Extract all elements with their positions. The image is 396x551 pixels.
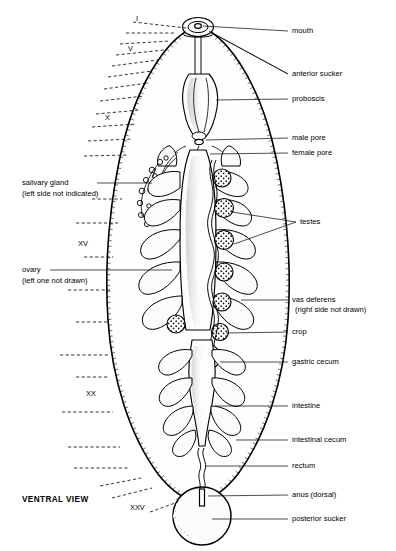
segment-numeral-XV: XV: [78, 239, 88, 248]
label-rectum: rectum: [292, 461, 315, 470]
label-intestine: intestine: [292, 401, 320, 410]
segment-numeral-I: I: [136, 14, 138, 23]
label-ovary-note: (left one not drawn): [22, 276, 88, 285]
leech-anatomy-svg: mouthanterior suckerproboscismale porefe…: [0, 0, 396, 551]
label-crop: crop: [292, 327, 307, 336]
left-label-group: salivary gland(left side not indicated)o…: [22, 178, 99, 285]
label-vas-deferens-note: (right side not drawn): [295, 305, 367, 314]
label-testes: testes: [300, 217, 320, 226]
label-posterior-sucker: posterior sucker: [292, 514, 346, 523]
label-proboscis: proboscis: [292, 94, 325, 103]
label-male-pore: male pore: [292, 133, 326, 142]
label-female-pore: female pore: [292, 148, 332, 157]
label-intestinal-cecum: intestinal cecum: [292, 435, 346, 444]
label-mouth: mouth: [292, 26, 313, 35]
mouth: [195, 24, 202, 29]
label-vas-deferens: vas deferens: [292, 295, 336, 304]
label-salivary-gland: salivary gland: [22, 178, 68, 187]
figure-canvas: mouthanterior suckerproboscismale porefe…: [0, 0, 396, 551]
ovary: [167, 315, 185, 333]
view-label: VENTRAL VIEW: [22, 495, 89, 504]
label-ovary: ovary: [22, 265, 41, 274]
label-salivary-gland-note: (left side not indicated): [22, 189, 99, 198]
crop: [139, 150, 258, 330]
segment-numeral-XX: XX: [86, 389, 96, 398]
anterior-sucker: [183, 18, 214, 38]
anus-dorsal: [200, 489, 205, 506]
label-gastric-cecum: gastric cecum: [292, 357, 339, 366]
segment-numeral-X: X: [105, 113, 110, 122]
segment-numeral-V: V: [128, 44, 133, 53]
right-label-group: mouthanterior suckerproboscismale porefe…: [292, 26, 367, 523]
label-anus-dorsal: anus (dorsal): [292, 490, 337, 499]
label-anterior-sucker: anterior sucker: [292, 69, 343, 78]
segment-numeral-XXV: XXV: [130, 503, 145, 512]
